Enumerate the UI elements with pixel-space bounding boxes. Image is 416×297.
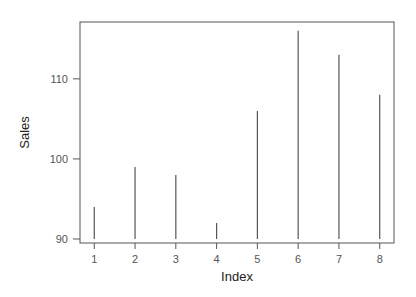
y-axis-title: Sales [17,116,32,149]
bars-group [94,31,379,239]
x-tick-label: 7 [336,253,342,265]
y-tick-label: 110 [50,73,68,85]
x-axis: 12345678 [91,243,383,265]
x-tick-label: 8 [377,253,383,265]
y-tick-label: 90 [56,233,68,245]
x-axis-title: Index [221,269,253,284]
y-tick-label: 100 [50,153,68,165]
plot-frame [80,22,394,243]
x-tick-label: 1 [91,253,97,265]
y-axis: 90100110 [50,73,80,245]
x-tick-label: 5 [254,253,260,265]
x-tick-label: 6 [295,253,301,265]
chart: 12345678 90100110 Index Sales [0,0,416,297]
x-tick-label: 4 [214,253,220,265]
x-tick-label: 2 [132,253,138,265]
x-tick-label: 3 [173,253,179,265]
